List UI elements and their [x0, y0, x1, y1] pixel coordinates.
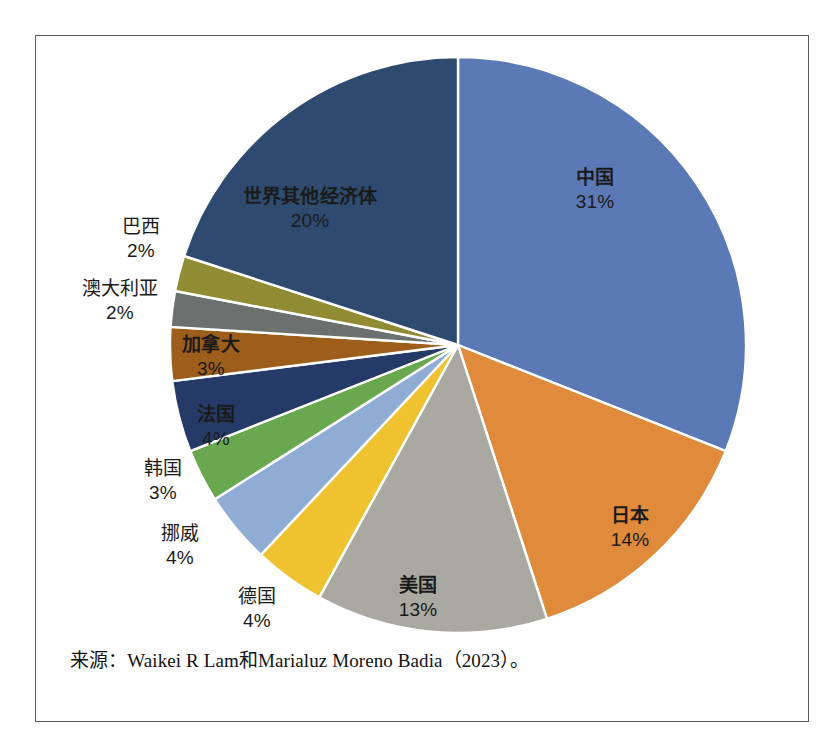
source-note: 来源：Waikei R Lam和Marialuz Moreno Badia（20… — [70, 645, 529, 672]
slice-label-usa: 美国 13% — [399, 574, 438, 623]
slice-value-germany: 4% — [238, 609, 276, 633]
slice-name-france: 法国 — [197, 403, 235, 427]
slice-label-china: 中国 31% — [576, 166, 615, 215]
slice-value-australia: 2% — [82, 301, 159, 325]
slice-name-germany: 德国 — [238, 585, 276, 609]
slice-name-usa: 美国 — [399, 574, 438, 598]
slice-value-canada: 3% — [182, 357, 240, 381]
slice-value-china: 31% — [576, 190, 615, 214]
slice-value-japan: 14% — [611, 528, 650, 552]
slice-label-brazil: 巴西 2% — [122, 215, 160, 264]
slice-label-australia: 澳大利亚 2% — [82, 277, 159, 326]
slice-name-australia: 澳大利亚 — [82, 277, 159, 301]
slice-name-rest-of-world: 世界其他经济体 — [243, 185, 377, 209]
slice-name-korea: 韩国 — [144, 457, 182, 481]
slice-name-japan: 日本 — [611, 504, 650, 528]
slice-value-rest-of-world: 20% — [243, 209, 377, 233]
slice-value-brazil: 2% — [122, 239, 160, 263]
slice-label-japan: 日本 14% — [611, 504, 650, 553]
figure-root: 中国 31% 日本 14% 美国 13% 德国 4% 挪威 4% 韩国 3% 法… — [0, 0, 837, 746]
slice-label-korea: 韩国 3% — [144, 457, 182, 506]
slice-name-china: 中国 — [576, 166, 615, 190]
slice-value-france: 4% — [197, 427, 235, 451]
slice-label-germany: 德国 4% — [238, 585, 276, 634]
slice-label-france: 法国 4% — [197, 403, 235, 452]
slice-label-rest-of-world: 世界其他经济体 20% — [243, 185, 377, 234]
slice-label-norway: 挪威 4% — [161, 522, 199, 571]
slice-value-norway: 4% — [161, 546, 199, 570]
slice-name-brazil: 巴西 — [122, 215, 160, 239]
slice-name-canada: 加拿大 — [182, 333, 240, 357]
slice-label-canada: 加拿大 3% — [182, 333, 240, 382]
slice-value-usa: 13% — [399, 598, 438, 622]
slice-value-korea: 3% — [144, 481, 182, 505]
slice-name-norway: 挪威 — [161, 522, 199, 546]
